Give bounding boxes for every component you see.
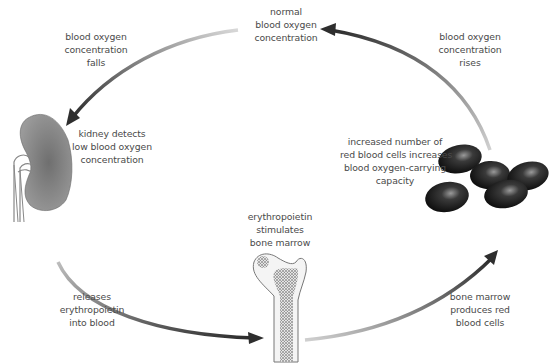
label-normal: normal blood oxygen concentration <box>244 5 328 44</box>
label-releases: releases erythropoietin into blood <box>54 290 130 329</box>
label-kidney: kidney detects low blood oxygen concentr… <box>70 127 154 166</box>
label-stimulates: erythropoietin stimulates bone marrow <box>240 210 320 249</box>
label-rises: blood oxygen concentration rises <box>430 30 510 69</box>
label-falls: blood oxygen concentration falls <box>56 30 136 69</box>
bone-marrow-icon <box>253 254 306 362</box>
label-produces: bone marrow produces red blood cells <box>444 290 516 329</box>
kidney-icon <box>14 114 72 222</box>
label-increased: increased number of red blood cells incr… <box>340 135 450 187</box>
